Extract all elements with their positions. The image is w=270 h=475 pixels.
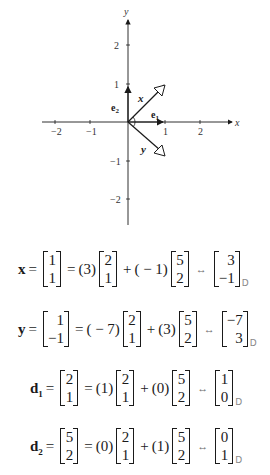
- coefficient: (1): [96, 380, 114, 397]
- eq-lhs: d1: [30, 380, 43, 397]
- x-tick-label: 2: [198, 126, 203, 137]
- x-axis-label: x: [234, 117, 240, 128]
- eq-lhs: x: [18, 261, 26, 278]
- y-tick-label: 1: [114, 79, 119, 90]
- x-tick-label: 1: [163, 126, 168, 137]
- coord-vector: 10: [215, 368, 233, 408]
- x-tick-label: −2: [51, 126, 62, 137]
- vector-matrix: 1−1: [43, 309, 69, 349]
- x-tick-label: −1: [86, 126, 97, 137]
- coefficient: (0): [96, 438, 114, 455]
- eq-sign: =: [29, 261, 37, 278]
- basis-subscript: D: [235, 455, 242, 465]
- eq-lhs: d2: [30, 438, 43, 455]
- coord-vector: 01: [215, 426, 233, 466]
- coefficient: (1): [152, 438, 170, 455]
- iso-arrow-icon: ↔: [196, 263, 207, 275]
- basis-vector-d2: 52: [171, 249, 189, 289]
- e2-label: e2: [111, 102, 119, 115]
- plus-sign: +: [140, 438, 148, 455]
- vector-matrix: 11: [43, 249, 61, 289]
- vector-matrix: 21: [60, 368, 78, 408]
- iso-arrow-icon: ↔: [204, 323, 215, 335]
- basis-vector-d2: 52: [172, 426, 190, 466]
- basis-vector-d1: 21: [123, 309, 141, 349]
- coefficient: ( − 1): [134, 261, 167, 278]
- basis-subscript: D: [235, 397, 242, 407]
- y-tick-label: −2: [110, 194, 121, 205]
- basis-vector-d2: 52: [179, 309, 197, 349]
- eq-sign: =: [46, 438, 54, 455]
- equation-y: y = 1−1 = ( − 7) 21 + (3) 52 ↔ −73 D: [0, 306, 270, 352]
- eq-sign: =: [46, 380, 54, 397]
- iso-arrow-icon: ↔: [197, 440, 208, 452]
- coefficient: ( − 7): [86, 321, 119, 338]
- eq-lhs: y: [18, 321, 26, 338]
- coordinate-plane: −2 −1 1 2 2 1 −1 −2 x y e1 e2 x y: [0, 0, 270, 235]
- coefficient: (3): [158, 321, 176, 338]
- vector-matrix: 52: [60, 426, 78, 466]
- e1-label: e1: [151, 109, 159, 122]
- basis-subscript: D: [250, 338, 257, 348]
- coefficient: (3): [78, 261, 96, 278]
- coefficient: (0): [152, 380, 170, 397]
- equation-d2: d2 = 52 = (0) 21 + (1) 52 ↔ 01 D: [0, 423, 270, 469]
- coord-vector: 3−1: [214, 249, 240, 289]
- eq-sign: =: [29, 321, 37, 338]
- y-tick-label: −1: [110, 156, 121, 167]
- iso-arrow-icon: ↔: [197, 382, 208, 394]
- plus-sign: +: [123, 261, 131, 278]
- eq-sign: =: [84, 438, 92, 455]
- y-axis-label: y: [123, 6, 129, 17]
- basis-vector-d1: 21: [99, 249, 117, 289]
- basis-vector-d1: 21: [116, 426, 134, 466]
- eq-sign: =: [75, 321, 83, 338]
- y-tick-label: 2: [114, 40, 119, 51]
- basis-vector-d2: 52: [172, 368, 190, 408]
- equation-d1: d1 = 21 = (1) 21 + (0) 52 ↔ 10 D: [0, 365, 270, 411]
- basis-vector-d1: 21: [116, 368, 134, 408]
- plus-sign: +: [147, 321, 155, 338]
- equation-x: x = 11 = (3) 21 + ( − 1) 52 ↔ 3−1 D: [0, 246, 270, 292]
- coord-vector: −73: [222, 309, 248, 349]
- eq-sign: =: [67, 261, 75, 278]
- x-vector-label: x: [137, 92, 144, 104]
- basis-subscript: D: [242, 278, 249, 288]
- plus-sign: +: [140, 380, 148, 397]
- y-vector-label: y: [139, 143, 146, 155]
- eq-sign: =: [84, 380, 92, 397]
